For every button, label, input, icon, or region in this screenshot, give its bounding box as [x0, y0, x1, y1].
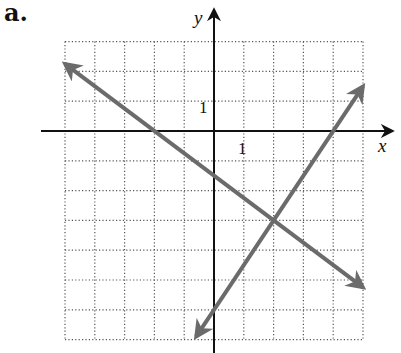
x-tick-label-1: 1 — [238, 139, 247, 158]
y-tick-label-1: 1 — [199, 98, 208, 117]
y-axis-label: y — [192, 7, 203, 28]
line-increasing — [196, 86, 363, 336]
x-axis-label: x — [377, 135, 387, 156]
coordinate-plane: x y 1 1 — [0, 0, 401, 353]
